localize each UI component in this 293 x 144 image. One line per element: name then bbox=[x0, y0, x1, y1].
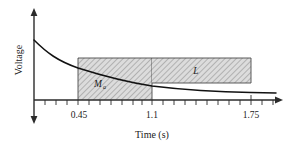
x-axis bbox=[34, 97, 283, 104]
region-m-sublabel: a bbox=[103, 84, 106, 90]
region-l bbox=[152, 58, 251, 83]
region-l-label: L bbox=[192, 66, 198, 76]
x-tick-label-045: 0.45 bbox=[71, 110, 88, 120]
voltage-time-chart: M a L 0.45 1.1 1.75 Time (s) Voltage bbox=[0, 0, 293, 144]
y-axis-title: Voltage bbox=[13, 44, 24, 75]
x-tick-label-175: 1.75 bbox=[243, 110, 260, 120]
y-axis bbox=[31, 8, 38, 124]
x-tick-label-11: 1.1 bbox=[146, 110, 158, 120]
y-axis-arrow-down-icon bbox=[31, 116, 38, 124]
region-m-label: M bbox=[93, 79, 103, 89]
region-l-fill bbox=[152, 58, 251, 83]
x-axis-title: Time (s) bbox=[135, 129, 169, 141]
figure-container: M a L 0.45 1.1 1.75 Time (s) Voltage bbox=[0, 0, 293, 144]
y-axis-arrow-up-icon bbox=[31, 8, 38, 16]
x-axis-arrow-right-icon bbox=[275, 97, 283, 104]
